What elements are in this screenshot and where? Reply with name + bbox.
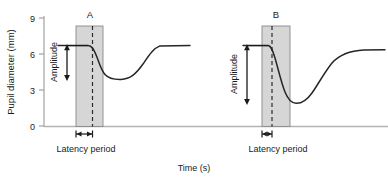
x-axis-title: Time (s) bbox=[178, 163, 211, 173]
panel-a-amplitude-label: Amplitude bbox=[49, 42, 59, 82]
panel-a-latency-arrow bbox=[76, 131, 93, 138]
panel-a-latency-label: Latency period bbox=[56, 144, 115, 154]
panel-a-label: A bbox=[87, 9, 94, 20]
pupil-reflex-figure: 9 6 3 0 Pupil diameter (mm) Time (s) A A… bbox=[0, 0, 388, 177]
panel-a: A Amplitude Latency period bbox=[49, 9, 190, 154]
panel-b-latency-arrow bbox=[262, 131, 272, 138]
panel-b-amplitude-label: Amplitude bbox=[229, 54, 239, 94]
y-tick-label-6: 6 bbox=[30, 50, 35, 60]
panel-b: B Amplitude Latency period bbox=[229, 9, 385, 154]
y-tick-label-0: 0 bbox=[30, 122, 35, 132]
y-tick-label-3: 3 bbox=[30, 86, 35, 96]
y-axis-title: Pupil diameter (mm) bbox=[5, 29, 16, 115]
panel-b-label: B bbox=[273, 9, 279, 20]
panel-b-latency-label: Latency period bbox=[248, 144, 307, 154]
y-tick-label-9: 9 bbox=[30, 14, 35, 24]
panel-a-stimulus-box bbox=[76, 26, 103, 127]
panel-b-stimulus-box bbox=[262, 26, 290, 127]
y-axis: 9 6 3 0 Pupil diameter (mm) bbox=[5, 14, 44, 132]
